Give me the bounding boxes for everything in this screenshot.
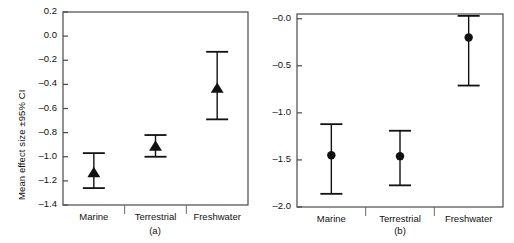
panel-b-series bbox=[320, 16, 479, 194]
data-point-group bbox=[320, 124, 342, 194]
y-tick-label: 0.2 bbox=[23, 5, 57, 16]
marker-triangle bbox=[149, 140, 162, 150]
marker-triangle bbox=[211, 82, 224, 92]
figure-container: Mean effect size ±95% CI 0.20.0–0.2–0.4–… bbox=[0, 0, 514, 243]
panel-b-caption: (b) bbox=[350, 225, 450, 236]
y-tick-label: –0.5 bbox=[257, 59, 291, 70]
panel-b: –0.0–0.5–1.0–1.5–2.0 MarineTerrestrialFr… bbox=[260, 0, 514, 243]
marker-triangle bbox=[87, 167, 100, 177]
y-tick-label: –1.0 bbox=[257, 106, 291, 117]
x-tick-label: Freshwater bbox=[186, 211, 248, 222]
y-tick-label: –0.8 bbox=[23, 126, 57, 137]
y-tick-label: –1.2 bbox=[23, 174, 57, 185]
marker-circle bbox=[327, 151, 335, 159]
x-tick-label: Marine bbox=[63, 211, 125, 222]
data-point-group bbox=[206, 52, 228, 120]
marker-circle bbox=[396, 152, 404, 160]
data-point-group bbox=[145, 135, 167, 157]
x-tick-label: Terrestrial bbox=[125, 211, 187, 222]
y-tick-label: –0.2 bbox=[23, 53, 57, 64]
y-tick-label: 0.0 bbox=[23, 29, 57, 40]
y-tick-label: –0.6 bbox=[23, 102, 57, 113]
panel-a-series bbox=[83, 52, 228, 188]
y-tick-label: –2.0 bbox=[257, 200, 291, 211]
y-tick-label: –0.4 bbox=[23, 77, 57, 88]
x-tick-label: Freshwater bbox=[434, 213, 503, 224]
y-tick-label: –1.0 bbox=[23, 150, 57, 161]
data-point-group bbox=[389, 131, 411, 186]
panel-a-y-ticks bbox=[63, 12, 68, 205]
data-point-group bbox=[83, 153, 105, 188]
data-point-group bbox=[458, 16, 480, 86]
y-tick-label: –0.0 bbox=[257, 12, 291, 23]
x-tick-label: Terrestrial bbox=[366, 213, 435, 224]
y-tick-label: –1.4 bbox=[23, 198, 57, 209]
panel-a: Mean effect size ±95% CI 0.20.0–0.2–0.4–… bbox=[0, 0, 260, 243]
x-tick-label: Marine bbox=[297, 213, 366, 224]
panel-b-y-ticks bbox=[297, 19, 302, 207]
panel-a-caption: (a) bbox=[105, 225, 205, 236]
y-tick-label: –1.5 bbox=[257, 153, 291, 164]
marker-circle bbox=[464, 33, 472, 41]
panel-b-plot bbox=[260, 0, 514, 243]
